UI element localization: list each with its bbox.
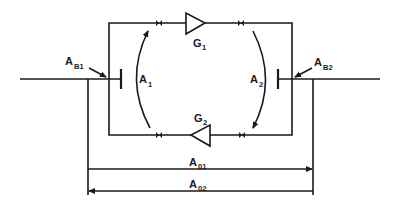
junction-mark-icon <box>156 132 162 138</box>
svg-text:B2: B2 <box>323 63 333 72</box>
svg-text:A: A <box>189 178 197 190</box>
svg-text:A: A <box>139 73 147 85</box>
junction-mark-icon <box>156 20 162 26</box>
junction-mark-icon <box>239 132 245 138</box>
svg-text:G: G <box>193 37 202 49</box>
label-g1: G 1 <box>193 37 206 52</box>
svg-text:G: G <box>194 112 203 124</box>
label-ab1: A B1 <box>65 55 84 71</box>
amplifier-g1-icon <box>186 13 205 34</box>
loop-bottom-right <box>210 79 292 135</box>
label-g2: G 2 <box>194 112 207 127</box>
svg-text:A: A <box>314 56 322 68</box>
pointer-arrow-ab2 <box>295 68 312 77</box>
svg-text:2: 2 <box>203 118 207 127</box>
svg-text:1: 1 <box>148 80 152 89</box>
svg-text:02: 02 <box>198 184 206 193</box>
label-ab2: A B2 <box>314 56 333 72</box>
repeater-diagram: A B1 A B2 A 1 A 2 G 1 G 2 A 01 A 02 <box>0 0 395 207</box>
svg-text:B1: B1 <box>74 62 84 71</box>
svg-text:1: 1 <box>202 43 206 52</box>
svg-text:2: 2 <box>259 80 263 89</box>
label-a2: A 2 <box>250 73 263 89</box>
label-a1: A 1 <box>139 73 152 89</box>
pointer-arrow-ab1 <box>89 68 106 77</box>
svg-text:A: A <box>65 55 73 67</box>
junction-mark-icon <box>238 20 244 26</box>
svg-text:A: A <box>250 73 258 85</box>
amplifier-g2-icon <box>191 125 210 146</box>
svg-text:A: A <box>189 156 197 168</box>
svg-text:01: 01 <box>198 162 206 171</box>
